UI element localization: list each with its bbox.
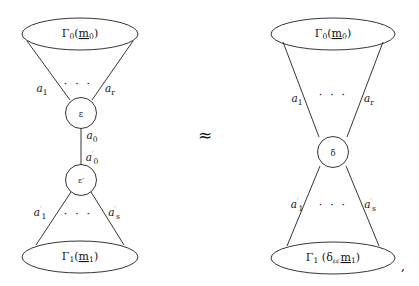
left-lower-edge-first-label: a′1	[34, 205, 47, 221]
right-lower-ellipsis: · · ·	[319, 199, 347, 212]
m-underlined: m	[341, 251, 352, 264]
left-upper-ellipsis: · · ·	[64, 78, 92, 91]
left-upper-edge-first-label: a1	[36, 82, 47, 96]
left-epsilon-prime-label: ε′	[78, 176, 84, 185]
left-diagram: Γ0(m0) Γ1(m1) ε ε′ a1 · · · ar a0 a′0 a′…	[22, 18, 138, 273]
right-upper-edge-first-label: a1	[291, 92, 302, 106]
right-delta-label: δ	[330, 148, 335, 158]
figure-canvas: Γ0(m0) Γ1(m1) ε ε′ a1 · · · ar a0 a′0 a′…	[0, 0, 419, 286]
trailing-comma: ,	[401, 259, 405, 273]
right-top-ellipse-label: Γ0(m0)	[315, 27, 351, 41]
left-middle-edge-upper-label: a0	[86, 129, 97, 143]
left-upper-edge-last-label: ar	[105, 82, 115, 96]
m-underlined: m	[79, 250, 90, 263]
diagram-figure: Γ0(m0) Γ1(m1) ε ε′ a1 · · · ar a0 a′0 a′…	[0, 0, 419, 286]
right-bottom-ellipse-label: Γ1 (δεε′m1)	[306, 251, 360, 265]
left-top-ellipse-label: Γ0(m0)	[62, 27, 98, 41]
right-upper-edge-last	[347, 42, 383, 137]
right-upper-ellipsis: · · ·	[319, 89, 347, 102]
left-middle-edge-lower-label: a′0	[86, 150, 99, 166]
right-diagram: Γ0(m0) Γ1 (δεε′m1) δ a1 · · · ar a′1 · ·…	[271, 18, 395, 274]
left-upper-edge-first	[27, 41, 70, 100]
relation-symbol: ≈	[198, 125, 212, 145]
right-upper-edge-last-label: ar	[364, 92, 374, 106]
left-lower-ellipsis: · · ·	[64, 208, 92, 221]
m-underlined: m	[79, 27, 90, 40]
left-lower-edge-last-label: a′s	[108, 205, 120, 221]
m-underlined: m	[332, 27, 343, 40]
left-bottom-ellipse-label: Γ1(m1)	[62, 250, 98, 264]
right-lower-edge-first-label: a′1	[291, 197, 304, 213]
left-epsilon-label: ε	[79, 109, 83, 119]
right-lower-edge-last-label: a′s	[364, 197, 376, 213]
right-upper-edge-first	[283, 42, 319, 137]
